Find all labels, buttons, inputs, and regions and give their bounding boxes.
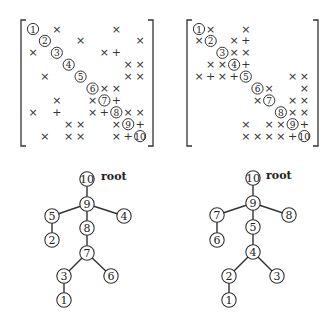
tree-node: 6 bbox=[104, 269, 118, 283]
svg-text:5: 5 bbox=[78, 72, 84, 82]
tree-node: 7 bbox=[80, 246, 94, 260]
nonzero-entry: × bbox=[76, 130, 85, 143]
nonzero-entry: × bbox=[206, 23, 215, 36]
svg-text:10: 10 bbox=[80, 173, 94, 186]
diagonal-entry: 5 bbox=[75, 71, 86, 82]
svg-text:7: 7 bbox=[214, 209, 221, 222]
diagonal-entry: 1 bbox=[27, 23, 38, 34]
nonzero-entry: × bbox=[241, 130, 250, 143]
svg-text:6: 6 bbox=[90, 84, 96, 94]
svg-text:4: 4 bbox=[250, 246, 257, 259]
svg-text:6: 6 bbox=[255, 84, 261, 94]
tree-node: 3 bbox=[57, 269, 71, 283]
svg-text:9: 9 bbox=[125, 120, 131, 130]
svg-text:7: 7 bbox=[84, 247, 91, 260]
diagonal-entry: 8 bbox=[275, 107, 286, 118]
root-label: root bbox=[101, 170, 127, 183]
fill-in-entry: + bbox=[206, 70, 215, 83]
fill-in-entry: + bbox=[112, 46, 121, 59]
right-bracket bbox=[313, 20, 318, 146]
tree-node: 1 bbox=[222, 293, 236, 307]
nonzero-entry: × bbox=[288, 106, 297, 119]
tree-node: 1 bbox=[57, 293, 71, 307]
tree-node: 5 bbox=[246, 220, 260, 234]
svg-text:5: 5 bbox=[49, 210, 56, 223]
svg-text:2: 2 bbox=[226, 270, 233, 283]
nonzero-entry: × bbox=[288, 70, 297, 83]
svg-text:3: 3 bbox=[274, 270, 281, 283]
svg-text:6: 6 bbox=[214, 234, 221, 247]
fill-in-entry: + bbox=[288, 130, 297, 143]
nonzero-entry: × bbox=[124, 106, 133, 119]
nonzero-entry: × bbox=[112, 130, 121, 143]
svg-text:1: 1 bbox=[196, 25, 202, 35]
svg-text:1: 1 bbox=[226, 294, 233, 307]
nonzero-entry: × bbox=[40, 130, 49, 143]
nonzero-entry: × bbox=[135, 70, 144, 83]
svg-text:5: 5 bbox=[243, 72, 249, 82]
root-label: root bbox=[266, 169, 292, 182]
nonzero-entry: × bbox=[276, 130, 285, 143]
svg-text:8: 8 bbox=[286, 209, 293, 222]
svg-text:6: 6 bbox=[108, 270, 115, 283]
svg-text:3: 3 bbox=[61, 270, 68, 283]
svg-text:2: 2 bbox=[49, 234, 56, 247]
original-matrix: 1××2×××3×+4×××5××6××××7+×+×+8×××××9+××××… bbox=[21, 20, 153, 146]
svg-text:4: 4 bbox=[231, 60, 237, 70]
tree-node: 10 bbox=[246, 171, 260, 185]
svg-text:8: 8 bbox=[84, 222, 91, 235]
svg-text:10: 10 bbox=[134, 132, 146, 142]
tree-node: 8 bbox=[282, 208, 296, 222]
diagonal-entry: 2 bbox=[39, 35, 50, 46]
diagonal-entry: 10 bbox=[299, 131, 311, 142]
tree-node: 3 bbox=[270, 269, 284, 283]
fill-in-entry: + bbox=[135, 118, 144, 131]
tree-node: 2 bbox=[45, 233, 59, 247]
diagonal-entry: 7 bbox=[99, 95, 110, 106]
diagonal-entry: 5 bbox=[240, 71, 251, 82]
nonzero-entry: × bbox=[194, 34, 203, 47]
fill-in-entry: + bbox=[124, 130, 133, 143]
reordered-matrix: 1×××2×+3××××4+×+×+5××6×××7××8×××××9+××××… bbox=[187, 20, 318, 146]
tree-node: 8 bbox=[80, 221, 94, 235]
svg-text:1: 1 bbox=[30, 25, 36, 35]
svg-text:3: 3 bbox=[54, 48, 60, 58]
tree-node: 10 bbox=[80, 172, 94, 186]
svg-text:9: 9 bbox=[84, 198, 91, 211]
diagonal-entry: 3 bbox=[51, 47, 62, 58]
nonzero-entry: × bbox=[52, 23, 61, 36]
diagonal-entry: 2 bbox=[205, 35, 216, 46]
tree-node: 5 bbox=[45, 209, 59, 223]
nonzero-entry: × bbox=[100, 46, 109, 59]
nonzero-entry: × bbox=[88, 106, 97, 119]
diagonal-entry: 4 bbox=[63, 59, 74, 70]
diagonal-entry: 10 bbox=[134, 131, 146, 142]
diagonal-entry: 9 bbox=[287, 119, 298, 130]
svg-text:7: 7 bbox=[266, 96, 272, 106]
reordered-elimination-tree: 10978564231root bbox=[210, 169, 296, 307]
fill-in-entry: + bbox=[229, 70, 238, 83]
nonzero-entry: × bbox=[218, 70, 227, 83]
svg-text:2: 2 bbox=[208, 36, 214, 46]
tree-node: 4 bbox=[117, 209, 131, 223]
tree-node: 7 bbox=[210, 208, 224, 222]
nonzero-entry: × bbox=[100, 82, 109, 95]
left-bracket bbox=[187, 20, 192, 146]
svg-text:9: 9 bbox=[250, 197, 257, 210]
svg-text:2: 2 bbox=[42, 36, 48, 46]
svg-text:3: 3 bbox=[220, 48, 226, 58]
nonzero-entry: × bbox=[76, 34, 85, 47]
fill-in-entry: + bbox=[100, 106, 109, 119]
svg-text:10: 10 bbox=[299, 132, 311, 142]
diagonal-entry: 1 bbox=[193, 23, 204, 34]
nonzero-entry: × bbox=[28, 46, 37, 59]
nonzero-entry: × bbox=[253, 94, 262, 107]
diagonal-entry: 3 bbox=[217, 47, 228, 58]
right-bracket bbox=[148, 20, 153, 146]
nonzero-entry: × bbox=[124, 70, 133, 83]
diagonal-entry: 9 bbox=[123, 119, 134, 130]
nonzero-entry: × bbox=[194, 70, 203, 83]
nonzero-entry: × bbox=[265, 82, 274, 95]
svg-text:4: 4 bbox=[121, 210, 128, 223]
fill-in-entry: + bbox=[52, 106, 61, 119]
